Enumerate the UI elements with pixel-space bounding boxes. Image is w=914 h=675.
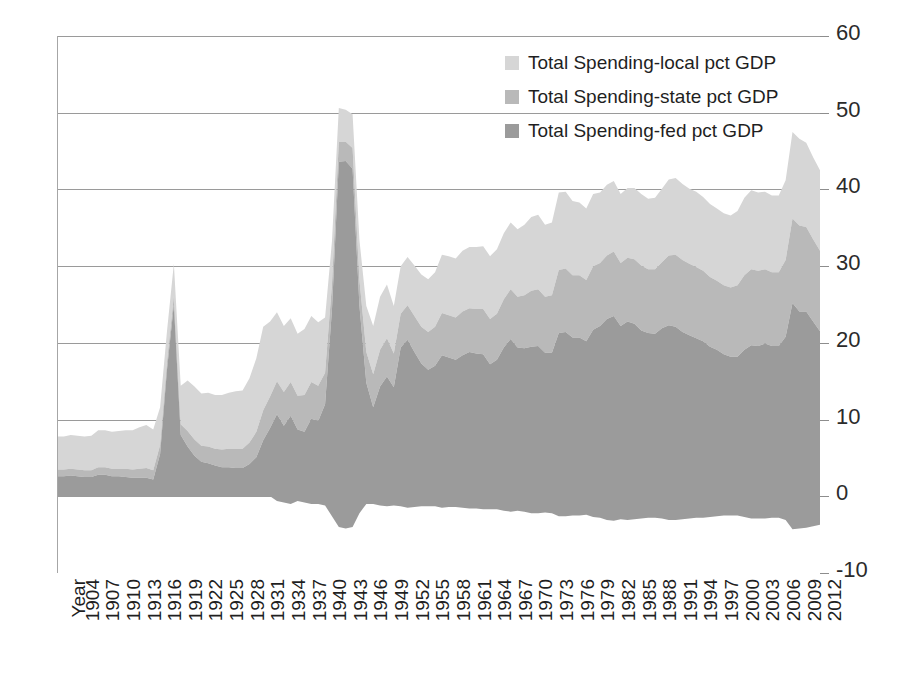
x-tick-label-1937: 1937 <box>310 579 329 621</box>
x-tick-label-1928: 1928 <box>248 579 267 621</box>
legend-label: Total Spending-local pct GDP <box>528 52 776 74</box>
y-tick-label-50: 50 <box>836 99 860 121</box>
x-axis: Year190419071910191319161919192219251928… <box>0 573 914 675</box>
legend-item-0: Total Spending-local pct GDP <box>505 47 776 78</box>
x-tick-label-1994: 1994 <box>701 579 720 621</box>
legend-swatch-icon <box>505 124 519 138</box>
legend-label: Total Spending-state pct GDP <box>528 86 778 108</box>
x-tick-label-1934: 1934 <box>289 579 308 621</box>
x-tick-label-2003: 2003 <box>763 579 782 621</box>
chart-legend: Total Spending-local pct GDPTotal Spendi… <box>505 47 825 150</box>
legend-item-1: Total Spending-state pct GDP <box>505 81 778 112</box>
x-tick-label-1925: 1925 <box>227 579 246 621</box>
x-tick-label-1913: 1913 <box>145 579 164 621</box>
y-tickmark-10 <box>820 420 829 421</box>
x-tick-label-2012: 2012 <box>825 579 844 621</box>
legend-item-2: Total Spending-fed pct GDP <box>505 115 764 146</box>
x-tick-label-1964: 1964 <box>495 579 514 621</box>
x-tick-label-1946: 1946 <box>371 579 390 621</box>
y-tick-label-0: 0 <box>836 482 848 504</box>
y-tick-label-20: 20 <box>836 329 860 351</box>
x-tick-label-1985: 1985 <box>640 579 659 621</box>
area-series-group <box>57 108 820 529</box>
y-tickmark-60 <box>820 36 829 37</box>
x-tick-label-1922: 1922 <box>206 579 225 621</box>
x-tick-label-1955: 1955 <box>433 579 452 621</box>
y-tickmark-40 <box>820 189 829 190</box>
x-tick-label-2006: 2006 <box>784 579 803 621</box>
x-tick-label-1949: 1949 <box>392 579 411 621</box>
x-tick-label-1991: 1991 <box>681 579 700 621</box>
x-tick-label-1907: 1907 <box>103 579 122 621</box>
x-tick-label-2000: 2000 <box>743 579 762 621</box>
x-tick-label-1976: 1976 <box>578 579 597 621</box>
x-tick-label-1988: 1988 <box>660 579 679 621</box>
x-tick-label-1952: 1952 <box>413 579 432 621</box>
x-tick-label-1910: 1910 <box>124 579 143 621</box>
chart-screenshot: -100102030405060 Year1904190719101913191… <box>0 0 914 675</box>
legend-label: Total Spending-fed pct GDP <box>528 120 764 142</box>
y-tick-label-30: 30 <box>836 252 860 274</box>
x-tick-label-1961: 1961 <box>475 579 494 621</box>
x-tick-label-1916: 1916 <box>165 579 184 621</box>
x-tick-label-2009: 2009 <box>805 579 824 621</box>
y-tickmark-20 <box>820 343 829 344</box>
y-tickmark-0 <box>820 496 829 497</box>
x-tick-label-1931: 1931 <box>268 579 287 621</box>
x-tick-label-1943: 1943 <box>351 579 370 621</box>
x-tick-label-1919: 1919 <box>186 579 205 621</box>
x-tick-label-1982: 1982 <box>619 579 638 621</box>
x-tick-label-1973: 1973 <box>557 579 576 621</box>
y-tick-label-10: 10 <box>836 406 860 428</box>
y-tick-label-40: 40 <box>836 175 860 197</box>
x-tick-label-1970: 1970 <box>536 579 555 621</box>
x-tick-label-1979: 1979 <box>598 579 617 621</box>
x-tick-label-1940: 1940 <box>330 579 349 621</box>
y-tickmark-30 <box>820 266 829 267</box>
x-tick-label-1904: 1904 <box>83 579 102 621</box>
legend-swatch-icon <box>505 56 519 70</box>
y-tick-label-60: 60 <box>836 22 860 44</box>
x-tick-label-1967: 1967 <box>516 579 535 621</box>
x-tick-label-1997: 1997 <box>722 579 741 621</box>
x-tick-label-1958: 1958 <box>454 579 473 621</box>
legend-swatch-icon <box>505 90 519 104</box>
